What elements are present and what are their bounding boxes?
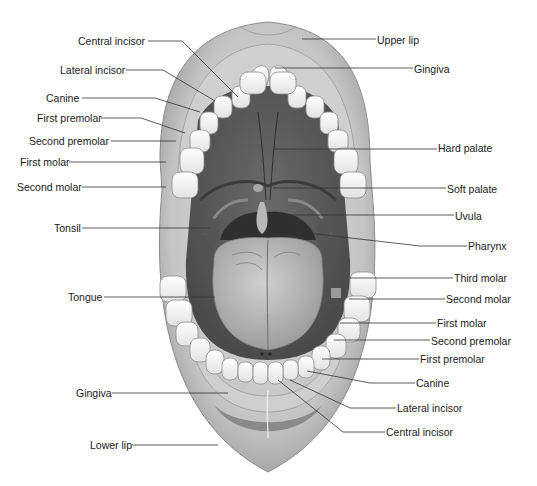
label-second-molar-upper: Second molar xyxy=(17,181,82,193)
label-tonsil: Tonsil xyxy=(54,222,81,234)
label-central-incisor-upper: Central incisor xyxy=(78,35,145,47)
label-canine-upper: Canine xyxy=(46,92,79,104)
label-gingiva-lower: Gingiva xyxy=(76,387,112,399)
label-first-molar-upper: First molar xyxy=(20,156,70,168)
label-second-premolar-upper: Second premolar xyxy=(29,135,109,147)
label-gingiva-upper: Gingiva xyxy=(414,63,450,75)
label-pharynx: Pharynx xyxy=(468,240,507,252)
label-hard-palate: Hard palate xyxy=(438,142,492,154)
label-central-incisor-lower: Central incisor xyxy=(386,426,453,438)
label-lower-lip: Lower lip xyxy=(90,439,132,451)
label-second-premolar-lower: Second premolar xyxy=(431,335,511,347)
label-first-molar-lower: First molar xyxy=(437,317,487,329)
label-lateral-incisor-lower: Lateral incisor xyxy=(397,402,462,414)
label-upper-lip: Upper lip xyxy=(377,34,419,46)
label-first-premolar-upper: First premolar xyxy=(37,112,102,124)
label-tongue: Tongue xyxy=(68,291,102,303)
label-third-molar: Third molar xyxy=(454,272,507,284)
tonsil-left xyxy=(205,218,219,246)
label-canine-lower: Canine xyxy=(416,377,449,389)
tonsil-right xyxy=(317,218,331,246)
label-second-molar-lower: Second molar xyxy=(446,293,511,305)
oral-cavity-diagram: Central incisor Lateral incisor Canine F… xyxy=(0,0,537,486)
label-uvula: Uvula xyxy=(455,210,482,222)
label-soft-palate: Soft palate xyxy=(447,183,497,195)
label-first-premolar-lower: First premolar xyxy=(420,353,485,365)
label-lateral-incisor-upper: Lateral incisor xyxy=(60,64,125,76)
